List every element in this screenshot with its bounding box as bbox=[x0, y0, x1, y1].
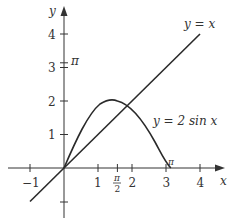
curve-2-sin-x bbox=[64, 100, 171, 168]
x-axis-label: x bbox=[220, 174, 227, 188]
y-axis-arrow-icon bbox=[61, 6, 68, 16]
line-label-y-equals-x: y = x bbox=[183, 17, 215, 31]
x-tick-label-neg1: −1 bbox=[22, 176, 40, 190]
y-tick-label-3: 3 bbox=[48, 61, 56, 75]
x-tick-label-4: 4 bbox=[197, 176, 205, 190]
y-tick-label-1: 1 bbox=[48, 128, 56, 142]
x-axis bbox=[8, 164, 225, 172]
y-axis-label: y bbox=[48, 4, 56, 18]
svg-text:2: 2 bbox=[115, 184, 121, 194]
x-axis-arrow-icon bbox=[215, 165, 225, 172]
y-tick-label-pi: π bbox=[70, 54, 80, 68]
x-tick-label-1: 1 bbox=[94, 176, 102, 190]
y-axis bbox=[60, 6, 68, 218]
chart-plot-area: −1 1 π 2 2 3 4 x π 1 2 3 π 4 y y = x y =… bbox=[0, 0, 227, 220]
y-tick-label-4: 4 bbox=[48, 28, 56, 42]
x-tick-label-3: 3 bbox=[163, 176, 171, 190]
curve-label-2-sin-x: y = 2 sin x bbox=[152, 114, 217, 128]
y-tick-label-2: 2 bbox=[48, 95, 56, 109]
x-intercept-pi-label: π bbox=[167, 157, 175, 167]
svg-text:π: π bbox=[113, 173, 121, 183]
x-tick-label-2: 2 bbox=[129, 176, 137, 190]
x-tick-label-pi-over-2: π 2 bbox=[113, 173, 121, 194]
